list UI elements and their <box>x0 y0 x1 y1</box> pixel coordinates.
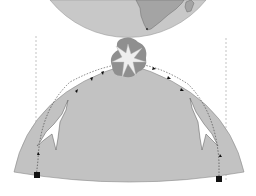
arrow-icon <box>167 76 171 79</box>
right-launch-site <box>216 176 222 182</box>
diagram-canvas <box>0 0 256 196</box>
left-launch-site <box>34 172 40 178</box>
upper-globe <box>50 0 206 37</box>
lower-globe-cap <box>14 64 244 182</box>
